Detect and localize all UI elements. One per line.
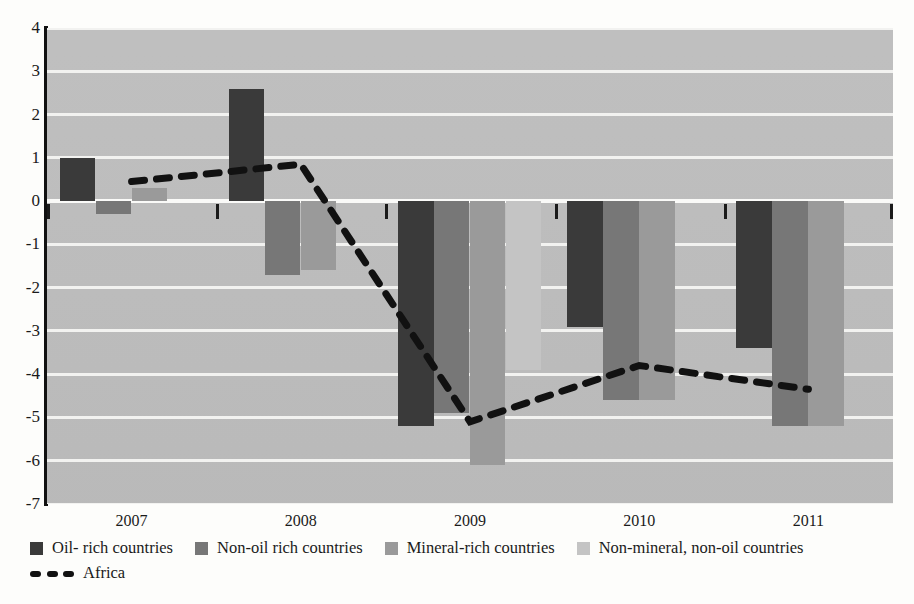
legend-swatch xyxy=(195,542,208,555)
legend-item[interactable]: Mineral-rich countries xyxy=(385,540,555,557)
legend-label: Non-oil rich countries xyxy=(217,540,363,557)
y-tick-label: -6 xyxy=(6,452,40,469)
x-tick-label: 2009 xyxy=(385,512,554,530)
legend-row-bars: Oil- rich countriesNon-oil rich countrie… xyxy=(30,536,910,561)
legend-item[interactable]: Non-oil rich countries xyxy=(195,540,363,557)
x-tick-label: 2007 xyxy=(47,512,216,530)
legend-label: Africa xyxy=(83,565,125,582)
legend-row-line: Africa xyxy=(30,561,910,586)
chart-root: 43210-1-2-3-4-5-6-7 20072008200920102011… xyxy=(0,0,914,604)
legend-dash-marker-icon xyxy=(30,567,74,580)
chart-legend: Oil- rich countriesNon-oil rich countrie… xyxy=(30,536,910,586)
legend-item[interactable]: Non-mineral, non-oil countries xyxy=(577,540,804,557)
y-tick-label: -3 xyxy=(6,322,40,339)
x-tick-label: 2010 xyxy=(555,512,724,530)
legend-swatch xyxy=(385,542,398,555)
legend-label: Mineral-rich countries xyxy=(407,540,555,557)
y-tick-label: 2 xyxy=(6,106,40,123)
y-tick-label: -4 xyxy=(6,365,40,382)
y-tick-label: -5 xyxy=(6,408,40,425)
y-axis-tick-labels: 43210-1-2-3-4-5-6-7 xyxy=(0,28,914,504)
legend-item[interactable]: Oil- rich countries xyxy=(30,540,173,557)
legend-label: Oil- rich countries xyxy=(52,540,173,557)
x-tick-label: 2011 xyxy=(724,512,893,530)
y-tick-label: -1 xyxy=(6,235,40,252)
y-tick-label: -7 xyxy=(6,495,40,512)
y-tick-label: 4 xyxy=(6,19,40,36)
legend-swatch xyxy=(30,542,43,555)
x-tick-label: 2008 xyxy=(216,512,385,530)
legend-item[interactable]: Africa xyxy=(30,565,125,582)
y-tick-label: -2 xyxy=(6,279,40,296)
legend-label: Non-mineral, non-oil countries xyxy=(599,540,804,557)
y-tick-label: 1 xyxy=(6,149,40,166)
legend-swatch xyxy=(577,542,590,555)
y-tick-label: 3 xyxy=(6,62,40,79)
y-tick-label: 0 xyxy=(6,192,40,209)
